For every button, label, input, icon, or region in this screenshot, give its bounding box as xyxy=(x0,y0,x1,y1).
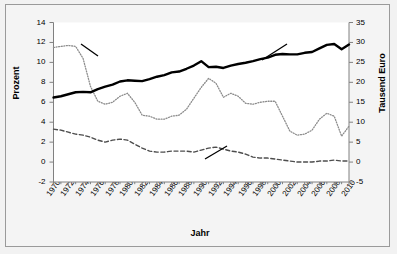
plot-area xyxy=(0,0,397,254)
chart-figure: Prozent Tausend Euro Jahr -202468101214 … xyxy=(0,0,397,254)
